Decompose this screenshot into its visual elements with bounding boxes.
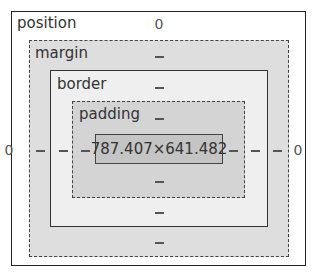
content-size: 787.407×641.482 (91, 140, 228, 158)
content-box[interactable]: 787.407×641.482 (95, 134, 223, 164)
border-top-value[interactable] (155, 87, 164, 89)
padding-left-value[interactable] (81, 150, 90, 152)
position-label: position (17, 16, 76, 31)
position-right-value[interactable]: 0 (294, 143, 303, 157)
margin-right-value[interactable] (273, 150, 282, 152)
margin-bottom-value[interactable] (155, 242, 164, 244)
margin-label: margin (35, 46, 88, 61)
position-left-value[interactable]: 0 (5, 143, 14, 157)
border-label: border (57, 77, 107, 92)
border-bottom-value[interactable] (155, 212, 164, 214)
border-left-value[interactable] (59, 150, 68, 152)
padding-bottom-value[interactable] (155, 181, 164, 183)
margin-left-value[interactable] (36, 150, 45, 152)
border-right-value[interactable] (251, 150, 260, 152)
padding-top-value[interactable] (155, 118, 164, 120)
padding-label: padding (79, 107, 140, 122)
position-top-value[interactable]: 0 (155, 17, 164, 31)
margin-top-value[interactable] (155, 56, 164, 58)
padding-right-value[interactable] (229, 150, 238, 152)
